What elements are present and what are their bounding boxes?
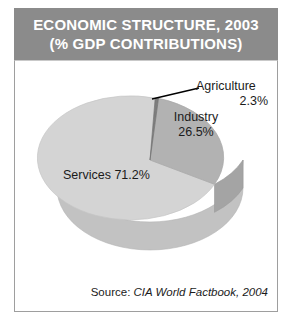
slice-label-agriculture: Agriculture 2.3% <box>196 79 272 108</box>
slice-label-services: Services 71.2% <box>63 168 193 183</box>
chart-title-banner: ECONOMIC STRUCTURE, 2003 (% GDP CONTRIBU… <box>14 8 278 60</box>
chart-title-line-2: (% GDP CONTRIBUTIONS) <box>49 34 242 53</box>
source-citation: CIA World Factbook, 2004 <box>134 286 268 298</box>
chart-figure: ECONOMIC STRUCTURE, 2003 (% GDP CONTRIBU… <box>0 0 293 328</box>
source-prefix: Source: <box>91 286 131 298</box>
chart-title-line-1: ECONOMIC STRUCTURE, 2003 <box>33 15 259 34</box>
industry-label-value: 26.5% <box>161 125 231 140</box>
agriculture-label-value: 2.3% <box>196 94 272 109</box>
slice-label-industry: Industry 26.5% <box>161 110 231 139</box>
industry-label-name: Industry <box>174 110 218 124</box>
source-note: Source: CIA World Factbook, 2004 <box>24 286 268 298</box>
agriculture-label-name: Agriculture <box>196 79 256 93</box>
